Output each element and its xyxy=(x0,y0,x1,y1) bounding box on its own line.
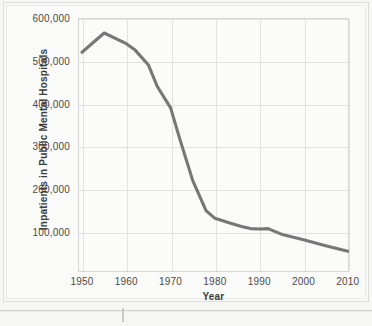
x-tick-label: 1950 xyxy=(60,276,104,287)
series-line xyxy=(78,18,349,272)
chart-page: 600,000 500,000 400,000 300,000 200,000 … xyxy=(0,0,372,326)
page-bottom-rule xyxy=(0,310,372,312)
y-tick-label: 500,000 xyxy=(0,56,70,67)
x-tick-label: 1990 xyxy=(237,276,281,287)
x-axis-title: Year xyxy=(78,291,349,302)
x-tick-label: 1960 xyxy=(104,276,148,287)
x-tick-label: 1980 xyxy=(193,276,237,287)
y-tick-label: 600,000 xyxy=(0,13,70,24)
y-tick-label: 200,000 xyxy=(0,184,70,195)
page-bottom-tick-mark xyxy=(122,308,124,322)
y-tick-label: 100,000 xyxy=(0,227,70,238)
line-chart: 600,000 500,000 400,000 300,000 200,000 … xyxy=(0,0,372,326)
y-axis-title: Inpatients in Public Mental Hospitals xyxy=(38,25,49,255)
y-tick-label: 400,000 xyxy=(0,99,70,110)
x-tick-label: 2000 xyxy=(282,276,326,287)
x-tick-label: 1970 xyxy=(149,276,193,287)
y-tick-label: 300,000 xyxy=(0,141,70,152)
x-tick-label: 2010 xyxy=(326,276,370,287)
